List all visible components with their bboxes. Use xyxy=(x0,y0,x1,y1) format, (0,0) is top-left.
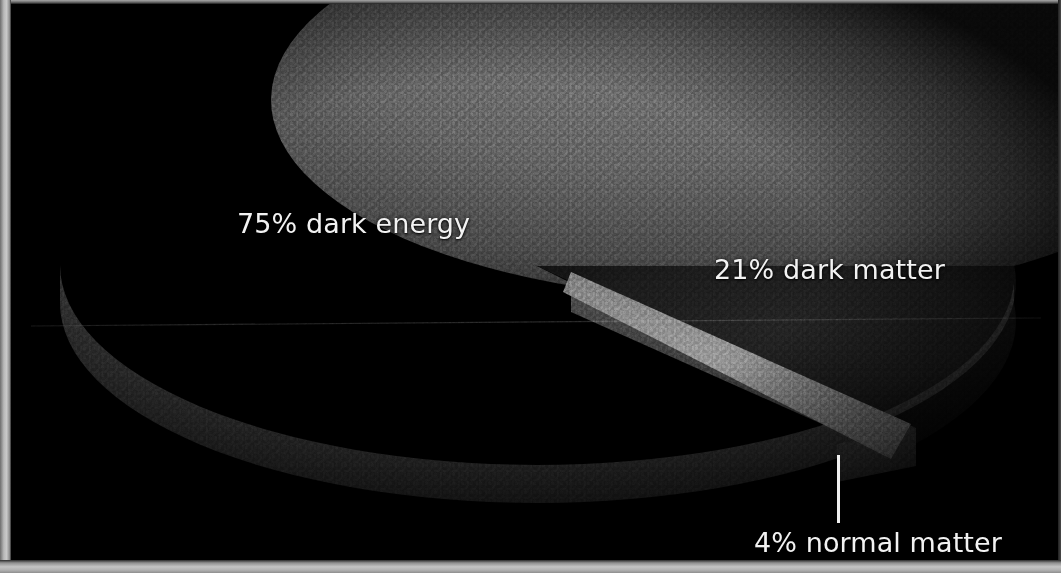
slice-dark-energy[interactable] xyxy=(271,4,1058,287)
scanned-page: 75% dark energy 21% dark matter 4% norma… xyxy=(0,0,1061,573)
figure-plate: 75% dark energy 21% dark matter 4% norma… xyxy=(11,4,1058,560)
page-edge-top xyxy=(0,0,1061,4)
page-edge-left xyxy=(0,0,11,573)
slice-label-normal-matter: 4% normal matter xyxy=(754,527,1002,558)
slice-label-dark-matter: 21% dark matter xyxy=(714,254,945,285)
page-edge-bottom xyxy=(0,560,1061,573)
slice-label-dark-energy: 75% dark energy xyxy=(237,208,470,239)
leader-line-normal-matter xyxy=(837,455,840,523)
pie-chart: 75% dark energy 21% dark matter 4% norma… xyxy=(11,4,1058,560)
